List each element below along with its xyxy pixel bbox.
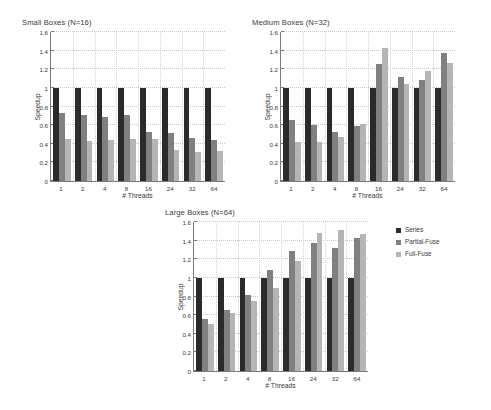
y-tick-label: 1.2	[39, 66, 48, 73]
bar-full-fuse-64	[217, 151, 223, 181]
y-tick-label: 0.4	[182, 330, 191, 337]
legend-label-partial-fuse: Partial-Fuse	[405, 239, 439, 245]
bar-full-fuse-8	[273, 288, 279, 371]
x-tick-label: 1	[289, 185, 292, 192]
panel-large-boxes: Large Boxes (N=64) 00.20.40.60.811.21.41…	[165, 208, 380, 403]
bar-full-fuse-32	[338, 230, 344, 371]
axes-medium: 00.20.40.60.811.21.41.6	[280, 32, 455, 182]
y-tick-label: 0	[188, 368, 191, 375]
x-tick-label: 24	[397, 185, 404, 192]
x-axis-label-small: # Threads	[122, 192, 152, 199]
bar-full-fuse-1	[208, 324, 214, 371]
legend-swatch-series	[396, 228, 401, 233]
chart-title-large: Large Boxes (N=64)	[165, 208, 235, 217]
x-tick-label: 2	[81, 185, 84, 192]
x-tick-label: 16	[288, 375, 295, 382]
x-tick-label: 1	[202, 375, 205, 382]
y-axis-label-large: Speedup	[177, 283, 184, 310]
x-tick-label: 32	[419, 185, 426, 192]
chart-legend: Series Partial-Fuse Full-Fuse	[396, 226, 439, 262]
x-tick-label: 4	[333, 185, 336, 192]
legend-label-full-fuse: Full-Fuse	[405, 251, 432, 257]
x-tick-label: 24	[167, 185, 174, 192]
y-tick-label: 0.4	[39, 140, 48, 147]
y-tick-label: 0	[45, 178, 48, 185]
x-tick-label: 2	[224, 375, 227, 382]
bar-full-fuse-2	[317, 142, 323, 181]
legend-label-series: Series	[405, 227, 423, 233]
bar-full-fuse-16	[152, 139, 158, 181]
bar-full-fuse-32	[195, 152, 201, 181]
panel-small-boxes: Small Boxes (N=16) 00.20.40.60.811.21.41…	[22, 18, 232, 208]
bar-full-fuse-1	[65, 139, 71, 181]
x-tick-label: 24	[310, 375, 317, 382]
x-tick-label: 64	[441, 185, 448, 192]
plot-area-large: 00.20.40.60.811.21.41.6 Speedup # Thread…	[193, 222, 368, 372]
bar-full-fuse-4	[108, 140, 114, 181]
legend-swatch-partial-fuse	[396, 240, 401, 245]
legend-item-full-fuse[interactable]: Full-Fuse	[396, 250, 439, 258]
x-tick-label: 64	[211, 185, 218, 192]
y-tick-label: 1.2	[269, 66, 278, 73]
x-tick-label: 8	[268, 375, 271, 382]
x-tick-label: 2	[311, 185, 314, 192]
bar-full-fuse-64	[360, 234, 366, 371]
axes-large: 00.20.40.60.811.21.41.6	[193, 222, 368, 372]
axes-small: 00.20.40.60.811.21.41.6	[50, 32, 225, 182]
y-axis-label-small: Speedup	[34, 93, 41, 120]
bar-full-fuse-8	[360, 124, 366, 181]
y-tick-label: 1.4	[269, 47, 278, 54]
x-tick-label: 16	[145, 185, 152, 192]
x-axis-label-large: # Threads	[265, 382, 295, 389]
y-tick-label: 1.2	[182, 256, 191, 263]
y-tick-label: 0	[275, 178, 278, 185]
plot-area-medium: 00.20.40.60.811.21.41.6 Speedup # Thread…	[280, 32, 455, 182]
bar-full-fuse-4	[338, 137, 344, 181]
bar-full-fuse-32	[425, 71, 431, 181]
bar-full-fuse-24	[404, 84, 410, 181]
y-tick-label: 0.2	[39, 159, 48, 166]
y-tick-label: 1.6	[182, 219, 191, 226]
legend-item-series[interactable]: Series	[396, 226, 439, 234]
x-tick-label: 8	[355, 185, 358, 192]
y-tick-label: 0.2	[269, 159, 278, 166]
y-tick-label: 1.6	[269, 29, 278, 36]
bars-large	[194, 222, 368, 371]
x-tick-label: 4	[103, 185, 106, 192]
y-tick-label: 1.4	[39, 47, 48, 54]
bar-full-fuse-2	[230, 313, 236, 371]
bar-full-fuse-16	[382, 48, 388, 181]
x-tick-label: 1	[59, 185, 62, 192]
bars-medium	[281, 32, 455, 181]
bar-full-fuse-16	[295, 261, 301, 371]
y-tick-label: 0.6	[269, 122, 278, 129]
y-axis-label-medium: Speedup	[264, 93, 271, 120]
bar-full-fuse-4	[251, 301, 257, 371]
y-tick-label: 1	[188, 274, 191, 281]
x-axis-label-medium: # Threads	[352, 192, 382, 199]
x-tick-label: 64	[354, 375, 361, 382]
y-tick-label: 0.6	[39, 122, 48, 129]
y-tick-label: 1.6	[39, 29, 48, 36]
x-tick-label: 32	[189, 185, 196, 192]
bar-full-fuse-1	[295, 142, 301, 181]
y-tick-label: 1	[275, 84, 278, 91]
y-tick-label: 0.2	[182, 349, 191, 356]
bar-full-fuse-8	[130, 139, 136, 181]
bar-full-fuse-24	[317, 233, 323, 371]
bar-full-fuse-24	[174, 150, 180, 181]
panel-medium-boxes: Medium Boxes (N=32) 00.20.40.60.811.21.4…	[252, 18, 464, 208]
x-tick-label: 16	[375, 185, 382, 192]
bars-small	[51, 32, 225, 181]
chart-title-small: Small Boxes (N=16)	[22, 18, 92, 27]
y-tick-label: 0.6	[182, 312, 191, 319]
legend-item-partial-fuse[interactable]: Partial-Fuse	[396, 238, 439, 246]
y-tick-label: 0.4	[269, 140, 278, 147]
bar-full-fuse-64	[447, 63, 453, 181]
x-tick-label: 8	[125, 185, 128, 192]
chart-title-medium: Medium Boxes (N=32)	[252, 18, 330, 27]
bar-full-fuse-2	[87, 141, 93, 181]
legend-swatch-full-fuse	[396, 252, 401, 257]
y-tick-label: 1	[45, 84, 48, 91]
x-tick-label: 4	[246, 375, 249, 382]
